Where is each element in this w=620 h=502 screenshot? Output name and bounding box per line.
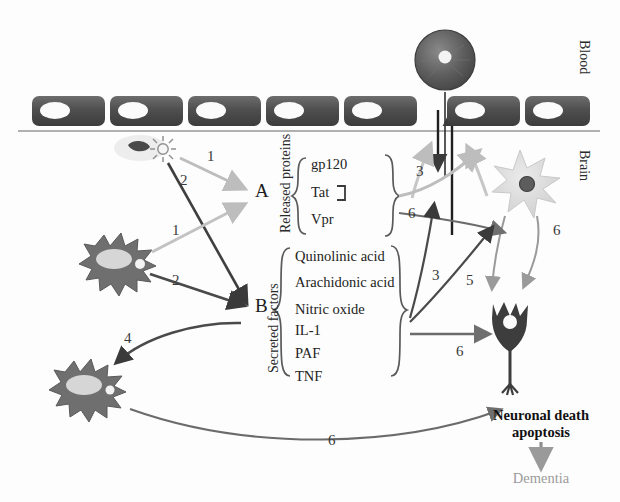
node-b-label: B [255,295,268,317]
astrocyte-cell [492,150,560,218]
endothelial-cell [266,96,339,126]
secreted-factor-item: PAF [295,345,320,362]
neuron-cell [492,302,528,395]
secreted-factor-item: IL-1 [295,322,321,339]
released-protein-item: Tat [311,184,329,201]
arrow-label-factors-to-astrocyte: 5 [466,272,474,289]
microglia-lower [49,359,126,422]
figure-canvas: Blood Brain Released proteins Secreted f… [0,0,620,502]
arrow-astrocyte-to-neuron-right [524,216,539,286]
arrow-astrocyte-to-neuron-left [492,216,505,288]
released-protein-item: Vpr [311,211,334,228]
outcome-dementia: Dementia [478,470,604,487]
microglia-upper [79,233,156,296]
endothelial-cell [344,96,417,126]
group-label-secreted-factors: Secreted factors [266,283,282,373]
compartment-label-blood: Blood [576,40,592,74]
arrow-label-b-to-microglia: 4 [124,330,132,347]
secreted-factor-item: Arachidonic acid [295,274,394,291]
arrow-label-virus-to-b: 2 [180,172,188,189]
outcome-line-1: Neuronal death [493,407,589,423]
arrow-label-virus-to-a: 1 [207,148,215,165]
arrow-label-microglia-to-b: 2 [172,272,180,289]
endothelial-nucleus [352,102,382,119]
bracket-tat [337,186,345,200]
secreted-factor-item: Nitric oxide [295,301,365,318]
arrow-label-astrocyte-to-neuron: 6 [553,222,561,239]
arrow-label-proteins-to-barrier: 6 [408,205,416,222]
endothelial-cell [110,96,183,126]
released-protein-item: gp120 [311,156,347,173]
endothelial-cell [188,96,261,126]
outcome-line-2: apoptosis [512,424,570,440]
hiv-virion [114,135,176,162]
endothelial-cell [447,96,520,126]
arrow-microglia-to-outcome [130,409,500,440]
endothelial-nucleus [118,102,148,119]
outcome-neuronal-death: Neuronal death apoptosis [478,407,604,440]
secreted-factor-item: TNF [295,368,322,385]
arrow-label-microglia-to-a: 1 [172,222,180,239]
secreted-factor-item: Quinolinic acid [295,248,385,265]
endothelial-nucleus [533,102,563,119]
arrow-factors-to-astrocyte [410,228,492,322]
endothelial-nucleus [274,102,304,119]
arrow-label-factors-to-barrier: 3 [432,267,440,284]
endothelial-nucleus [455,102,485,119]
node-a-label: A [255,180,269,202]
arrow-microglia-to-a [152,205,243,252]
endothelial-nucleus [196,102,226,119]
arrow-label-factors-to-neuron: 6 [456,343,464,360]
arrow-b-to-microglia [117,323,241,362]
arrow-microglia-to-b [150,274,243,305]
monocyte-cell [415,30,475,90]
compartment-label-brain: Brain [576,150,592,181]
group-label-released-proteins: Released proteins [278,134,294,233]
endothelial-nucleus [40,102,70,119]
endothelial-cell [32,96,105,126]
endothelial-cell [525,96,590,126]
arrow-label-proteins-to-astrocyte: 3 [416,163,424,180]
arrow-label-microglia-to-outcome: 6 [328,432,336,449]
